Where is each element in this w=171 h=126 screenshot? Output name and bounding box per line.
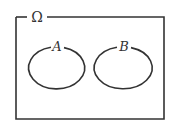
- venn-diagram: Ω A B: [0, 0, 171, 126]
- set-b-label: B: [118, 39, 129, 54]
- universe-box: [16, 17, 164, 119]
- universe-label: Ω: [31, 9, 43, 25]
- set-a-label: A: [51, 39, 61, 54]
